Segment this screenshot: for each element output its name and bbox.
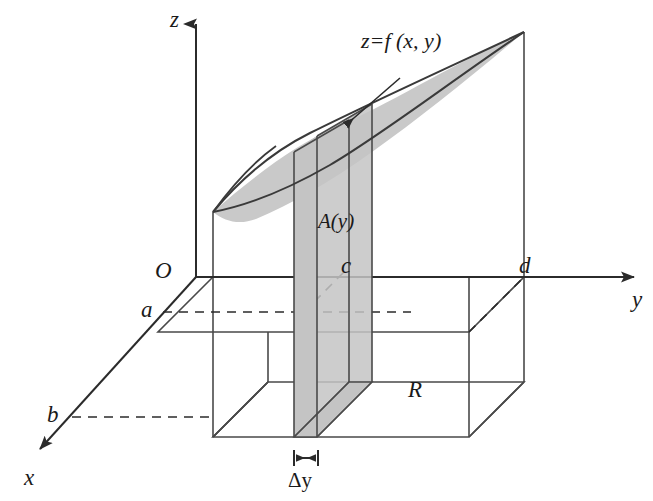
diagram-canvas [0, 0, 653, 501]
x-axis-label: x [24, 466, 34, 489]
y-bound-d-label: d [519, 254, 531, 277]
y-bound-c-label: c [341, 254, 351, 277]
x-axis [40, 277, 196, 449]
y-axis-label: y [632, 288, 642, 311]
origin-label: O [155, 259, 172, 282]
cross-section-face-left [294, 136, 317, 437]
delta-y-label: Δy [288, 470, 312, 491]
figure-container: z y x O a b c d A(y) R z=f (x, y) Δy [0, 0, 653, 501]
x-bound-a-label: a [141, 298, 153, 321]
x-bound-b-label: b [47, 403, 59, 426]
cross-section-area-label: A(y) [318, 211, 354, 232]
z-axis-label: z [170, 8, 179, 31]
surface-equation-label: z=f (x, y) [361, 30, 441, 52]
base-region-label: R [408, 378, 422, 401]
